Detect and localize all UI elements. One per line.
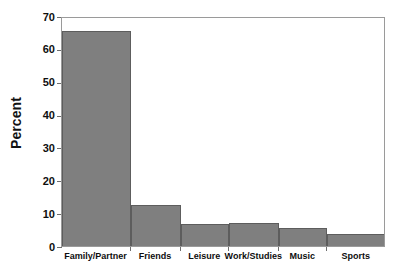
y-tick-label: 70 — [43, 11, 55, 22]
bar — [131, 205, 181, 246]
bar-chart: Percent 010203040506070 Family/PartnerFr… — [0, 0, 397, 273]
x-axis-label: Sports — [341, 250, 370, 262]
y-axis-title-text: Percent — [8, 97, 24, 149]
x-axis-label: Family/Partner — [64, 250, 127, 262]
y-tick-label: 0 — [49, 241, 55, 252]
y-tick-label: 60 — [43, 44, 55, 55]
x-axis-label: Work/Studies — [225, 250, 282, 262]
y-axis-ticks: 010203040506070 — [24, 0, 62, 273]
y-tick-label: 20 — [43, 175, 55, 186]
x-axis-labels: Family/PartnerFriendsLeisureWork/Studies… — [61, 250, 385, 270]
bars-layer — [62, 18, 384, 246]
bar — [62, 31, 131, 246]
y-tick-label: 50 — [43, 77, 55, 88]
bar — [327, 234, 385, 246]
bar — [181, 224, 229, 246]
y-tick-label: 30 — [43, 142, 55, 153]
x-axis-label: Leisure — [188, 250, 220, 262]
bar — [279, 228, 327, 246]
x-axis-label: Friends — [139, 250, 172, 262]
y-tick-label: 40 — [43, 110, 55, 121]
x-axis-label: Music — [290, 250, 316, 262]
plot-area — [61, 17, 385, 247]
y-tick-label: 10 — [43, 208, 55, 219]
bar — [229, 223, 279, 246]
